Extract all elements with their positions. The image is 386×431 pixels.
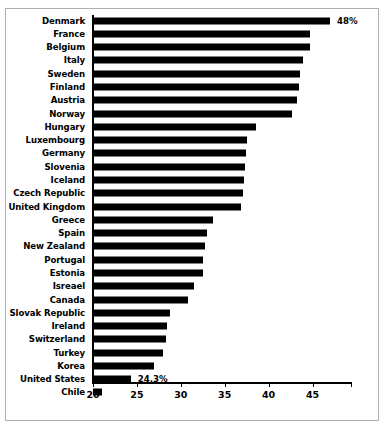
bar-category-label: France [53,30,85,39]
x-axis-tick [225,382,226,387]
bar-category-label: Isreael [53,282,85,291]
bar-category-label: Austria [51,96,85,105]
bar-row: France [6,27,378,40]
bar-fill [93,84,299,91]
bar-category-label: Italy [64,56,85,65]
bar-fill [93,163,245,170]
y-axis-line [92,15,94,384]
bar-row: United States24.3% [6,373,378,386]
bar-row: Iceland [6,173,378,186]
bar-track [93,190,243,197]
bar-category-label: Luxembourg [26,136,85,145]
bar-row: Hungary [6,120,378,133]
bar-track [93,203,241,210]
chart-frame: Denmark48%FranceBelgiumItalySwedenFinlan… [5,8,379,421]
bar-category-label: Denmark [42,16,85,25]
bar-fill [93,44,310,51]
bar-category-label: Switzerland [29,335,85,344]
bar-category-label: Slovenia [44,162,85,171]
bar-track [93,216,213,223]
bar-track [93,17,330,24]
bar-category-label: Spain [58,229,85,238]
bar-row: Finland [6,80,378,93]
bar-category-label: Korea [57,362,85,371]
plot-area: Denmark48%FranceBelgiumItalySwedenFinlan… [6,9,378,420]
bar-category-label: Canada [50,295,85,304]
x-axis-tick-label: 20 [86,389,99,400]
bar-fill [93,203,241,210]
bar-category-label: Greece [52,216,85,225]
bar-row: Belgium [6,41,378,54]
bar-fill [93,70,300,77]
bar-track [93,150,246,157]
bar-value-label: 48% [337,16,358,26]
bar-fill [93,97,297,104]
bar-fill [93,177,244,184]
bar-fill [93,57,303,64]
x-axis-tick-label: 35 [218,389,231,400]
bar-row: Slovenia [6,160,378,173]
bar-track [93,44,310,51]
bar-fill [93,283,194,290]
bar-row: Isreael [6,280,378,293]
bar-row: Sweden [6,67,378,80]
bar-fill [93,309,170,316]
bar-category-label: Finland [50,83,85,92]
bar-track [93,177,244,184]
bar-track [93,243,205,250]
bar-track [93,97,297,104]
bar-track [93,362,154,369]
bar-fill [93,362,154,369]
bar-row: Czech Republic [6,187,378,200]
bar-row: Greece [6,213,378,226]
bar-track [93,230,207,237]
bar-track [93,309,170,316]
bar-fill [93,30,310,37]
bar-row: Turkey [6,346,378,359]
bar-track [93,283,194,290]
bar-track [93,256,203,263]
bar-row: Germany [6,147,378,160]
bar-row: Korea [6,359,378,372]
x-axis-tick [137,382,138,387]
bar-fill [93,349,163,356]
bar-row: Estonia [6,266,378,279]
bar-row: Switzerland [6,333,378,346]
bar-track [93,137,247,144]
bar-fill [93,110,292,117]
bar-category-label: Belgium [46,43,85,52]
bar-row: Spain [6,226,378,239]
x-axis-tick [269,382,270,387]
bar-category-label: United Kingdom [8,202,85,211]
bar-track [93,70,300,77]
bar-row: Italy [6,54,378,67]
bar-row: Luxembourg [6,134,378,147]
bar-row: United Kingdom [6,200,378,213]
bar-track [93,84,299,91]
bar-track [93,30,310,37]
bar-category-label: Sweden [48,69,85,78]
bar-row: Norway [6,107,378,120]
bar-row: Slovak Republic [6,306,378,319]
bar-fill [93,323,167,330]
bar-row: Austria [6,94,378,107]
bar-fill [93,336,166,343]
bar-track [93,296,188,303]
x-axis-tick-label: 40 [262,389,275,400]
x-axis-tick-label: 30 [174,389,187,400]
bar-row: New Zealand [6,240,378,253]
bar-fill [93,269,203,276]
x-axis-tick-label: 45 [306,389,319,400]
bar-fill [93,230,207,237]
bar-category-label: Ireland [51,322,85,331]
bar-fill [93,150,246,157]
bar-track [93,269,203,276]
bar-row: Denmark48% [6,14,378,27]
bar-category-label: New Zealand [23,242,85,251]
bar-category-label: Slovak Republic [10,309,86,318]
bar-track [93,123,256,130]
x-axis-tick [181,382,182,387]
bar-category-label: Portugal [44,255,85,264]
bar-fill [93,216,213,223]
bar-track [93,323,167,330]
